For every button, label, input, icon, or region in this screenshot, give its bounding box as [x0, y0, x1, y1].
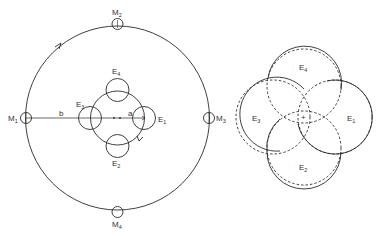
label-right-e1: E1 — [347, 114, 355, 124]
label-m3: M3 — [216, 114, 226, 124]
label-e1: E1 — [158, 115, 166, 125]
orbit-diagram: M1 M2 M3 M4 E1 E2 E3 E4 b a E4 E3 E1 E2 … — [0, 0, 377, 236]
e4-circle — [106, 79, 129, 102]
label-m1: M1 — [8, 114, 18, 124]
inner-orbit-arrow-icon — [137, 136, 143, 141]
label-right-e4: E4 — [299, 63, 307, 73]
label-m2: M2 — [112, 8, 122, 18]
center-plus-icon: + — [301, 113, 306, 122]
label-e3: E3 — [76, 100, 84, 110]
label-e4: E4 — [112, 67, 120, 77]
m4-circle — [112, 207, 123, 218]
label-b: b — [59, 109, 64, 118]
label-m4: M4 — [112, 220, 122, 230]
label-e2: E2 — [112, 159, 120, 169]
r-e1-circle — [311, 80, 372, 154]
label-right-e2: E2 — [299, 163, 307, 173]
label-a: a — [128, 109, 133, 118]
label-right-e3: E3 — [252, 114, 260, 124]
e2-circle — [106, 135, 129, 158]
